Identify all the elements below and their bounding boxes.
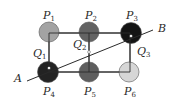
label-p6: P6	[123, 85, 136, 99]
label-q3: Q3	[137, 45, 151, 59]
label-b: B	[157, 22, 166, 35]
grid-line-diagram: P1 P2 P3 P4 P5 P6 Q1 Q2 Q3 A B	[0, 0, 177, 105]
label-p4: P4	[42, 85, 55, 99]
label-p2: P2	[84, 9, 97, 23]
label-p3: P3	[125, 9, 138, 23]
intersection-q2-marker	[88, 51, 91, 54]
intersection-q1-marker	[47, 66, 50, 69]
label-a: A	[13, 72, 22, 85]
label-p5: P5	[83, 85, 96, 99]
intersection-q3-marker	[129, 34, 132, 37]
label-q1: Q1	[33, 47, 47, 61]
label-p1: P1	[42, 9, 55, 23]
